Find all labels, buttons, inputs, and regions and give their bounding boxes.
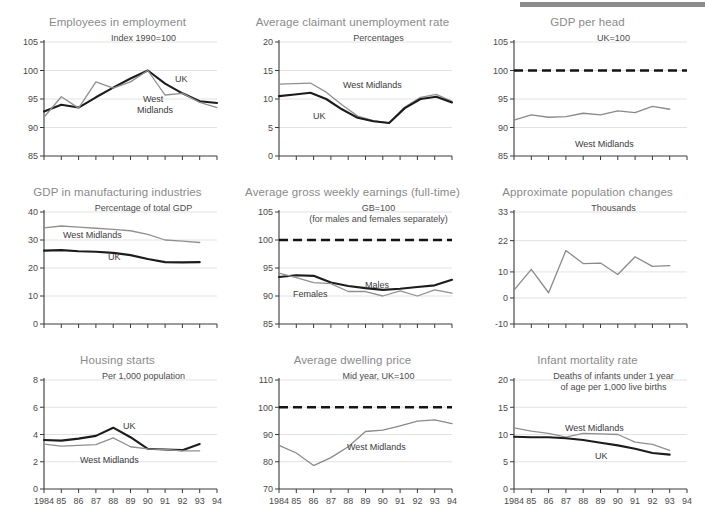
- y-tick-label: 4: [33, 430, 38, 440]
- y-tick-label: 85: [28, 151, 38, 161]
- series-label: West Midlands: [347, 442, 406, 452]
- chart-subtitle-gdp-per-head: UK=100: [470, 33, 705, 43]
- y-tick-label: 90: [263, 291, 273, 301]
- x-tick-label: 91: [160, 496, 170, 506]
- x-tick-label: 92: [412, 496, 422, 506]
- x-tick-label: 92: [177, 496, 187, 506]
- chart-subtitle-infant-mortality-rate: Deaths of infants under 1 year: [470, 371, 705, 381]
- y-tick-label: 70: [263, 484, 273, 494]
- chart-title-infant-mortality-rate: Infant mortality rate: [470, 354, 705, 366]
- x-tick-label: 87: [326, 496, 336, 506]
- series-label: Females: [293, 289, 328, 299]
- chart-subtitle-employees-in-employment: Index 1990=100: [0, 33, 261, 43]
- chart-subtitle-gdp-in-manufacturing-industries: Percentage of total GDP: [0, 203, 261, 213]
- x-tick-label: 93: [430, 496, 440, 506]
- chart-panel-average-claimant-unemployment-rate: Average claimant unemployment ratePercen…: [235, 12, 470, 182]
- y-tick-label: 5: [268, 123, 273, 133]
- x-tick-label: 92: [647, 496, 657, 506]
- y-tick-label: 80: [263, 457, 273, 467]
- series-label: Midlands: [137, 105, 173, 115]
- chart-panel-housing-starts: Housing startsPer 1,000 population024681…: [0, 350, 235, 527]
- y-tick-label: -10: [495, 319, 508, 329]
- chart-panel-employees-in-employment: Employees in employmentIndex 1990=100859…: [0, 12, 235, 182]
- x-tick-label: 88: [108, 496, 118, 506]
- y-tick-label: 15: [263, 66, 273, 76]
- x-tick-label: 94: [212, 496, 222, 506]
- chart-panel-gdp-per-head: GDP per headUK=100859095100105West Midla…: [470, 12, 705, 182]
- x-tick-label: 94: [682, 496, 692, 506]
- y-tick-label: 0: [33, 319, 38, 329]
- chart-panel-average-gross-weekly-earnings: Average gross weekly earnings (full-time…: [235, 182, 470, 350]
- chart-title-gdp-in-manufacturing-industries: GDP in manufacturing industries: [0, 186, 235, 198]
- series-line-west-midlands: [514, 106, 670, 120]
- chart-subtitle2-average-gross-weekly-earnings: (for males and females separately): [235, 214, 496, 224]
- series-line-uk: [44, 71, 217, 112]
- y-tick-label: 10: [498, 430, 508, 440]
- y-tick-label: 90: [28, 123, 38, 133]
- chart-title-average-dwelling-price: Average dwelling price: [235, 354, 470, 366]
- series-label: West Midlands: [80, 455, 139, 465]
- y-tick-label: 100: [493, 66, 508, 76]
- x-tick-label: 93: [195, 496, 205, 506]
- series-label: West: [143, 94, 163, 104]
- chart-subtitle-average-claimant-unemployment-rate: Percentages: [235, 33, 496, 43]
- series-label: West Midlands: [343, 80, 402, 90]
- chart-panel-infant-mortality-rate: Infant mortality rateDeaths of infants u…: [470, 350, 705, 527]
- y-tick-label: 0: [33, 484, 38, 494]
- y-tick-label: 100: [258, 403, 273, 413]
- chart-title-average-claimant-unemployment-rate: Average claimant unemployment rate: [235, 16, 470, 28]
- y-tick-label: 10: [263, 94, 273, 104]
- y-tick-label: 0: [268, 151, 273, 161]
- x-tick-label: 91: [395, 496, 405, 506]
- x-tick-label: 88: [343, 496, 353, 506]
- y-tick-label: 90: [263, 430, 273, 440]
- x-tick-label: 87: [561, 496, 571, 506]
- series-label: West Midlands: [575, 139, 634, 149]
- series-label: UK: [595, 451, 608, 461]
- x-tick-label: 1984: [269, 496, 289, 506]
- chart-title-housing-starts: Housing starts: [0, 354, 235, 366]
- chart-panel-gdp-in-manufacturing-industries: GDP in manufacturing industriesPercentag…: [0, 182, 235, 350]
- chart-title-approximate-population-changes: Approximate population changes: [470, 186, 705, 198]
- y-tick-label: 15: [498, 403, 508, 413]
- x-tick-label: 89: [125, 496, 135, 506]
- series-label: West Midlands: [63, 230, 122, 240]
- x-tick-label: 90: [378, 496, 388, 506]
- y-tick-label: 95: [498, 94, 508, 104]
- x-tick-label: 89: [595, 496, 605, 506]
- x-tick-label: 85: [526, 496, 536, 506]
- y-tick-label: 85: [263, 319, 273, 329]
- chart-subtitle-average-dwelling-price: Mid year, UK=100: [235, 371, 496, 381]
- y-tick-label: 22: [498, 236, 508, 246]
- y-tick-label: 0: [503, 293, 508, 303]
- y-tick-label: 30: [28, 235, 38, 245]
- y-tick-label: 20: [28, 263, 38, 273]
- y-tick-label: 90: [498, 123, 508, 133]
- chart-subtitle-average-gross-weekly-earnings: GB=100: [235, 203, 496, 213]
- chart-panel-average-dwelling-price: Average dwelling priceMid year, UK=10070…: [235, 350, 470, 527]
- series-line-uk: [44, 428, 200, 450]
- chart-subtitle2-infant-mortality-rate: of age per 1,000 live births: [470, 382, 705, 392]
- x-tick-label: 94: [447, 496, 457, 506]
- x-tick-label: 88: [578, 496, 588, 506]
- y-tick-label: 100: [23, 66, 38, 76]
- series-line-uk: [514, 437, 670, 455]
- chart-panel-approximate-population-changes: Approximate population changesThousands-…: [470, 182, 705, 350]
- series-line-uk: [44, 250, 200, 262]
- x-tick-label: 86: [544, 496, 554, 506]
- y-tick-label: 10: [28, 291, 38, 301]
- series-label: UK: [123, 421, 136, 431]
- y-tick-label: 100: [258, 235, 273, 245]
- x-tick-label: 90: [613, 496, 623, 506]
- chart-subtitle-approximate-population-changes: Thousands: [470, 203, 705, 213]
- y-tick-label: 0: [503, 484, 508, 494]
- x-tick-label: 85: [291, 496, 301, 506]
- series-label: UK: [175, 74, 188, 84]
- series-label: UK: [313, 111, 326, 121]
- x-tick-label: 90: [143, 496, 153, 506]
- chart-subtitle-housing-starts: Per 1,000 population: [0, 371, 261, 381]
- x-tick-label: 86: [309, 496, 319, 506]
- x-tick-label: 85: [56, 496, 66, 506]
- x-tick-label: 1984: [504, 496, 524, 506]
- series-label: West Midlands: [565, 423, 624, 433]
